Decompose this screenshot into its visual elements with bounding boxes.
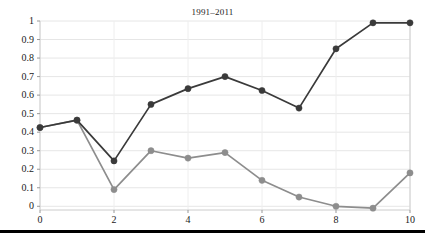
y-tick-label: 0.2	[8, 164, 34, 174]
data-point-marker	[370, 205, 376, 211]
x-tick-label: 4	[178, 215, 198, 225]
data-point-marker	[74, 117, 80, 123]
data-point-marker	[222, 73, 228, 79]
series-line-light-series	[40, 120, 410, 208]
y-tick-label: 0	[8, 201, 34, 211]
data-point-marker	[222, 149, 228, 155]
data-point-marker	[296, 105, 302, 111]
y-tick-label: 1	[8, 16, 34, 26]
x-tick-label: 8	[326, 215, 346, 225]
data-series-group	[37, 20, 413, 211]
bottom-rule	[0, 230, 425, 233]
data-point-marker	[407, 170, 413, 176]
data-point-marker	[148, 148, 154, 154]
y-tick-label: 0.8	[8, 53, 34, 63]
data-point-marker	[259, 87, 265, 93]
data-point-marker	[259, 177, 265, 183]
y-tick-label: 0.7	[8, 72, 34, 82]
data-point-marker	[333, 46, 339, 52]
y-tick-label: 0.4	[8, 127, 34, 137]
data-point-marker	[296, 194, 302, 200]
x-tick-label: 2	[104, 215, 124, 225]
data-point-marker	[148, 101, 154, 107]
chart-plot-area	[0, 0, 425, 238]
x-tick-label: 10	[400, 215, 420, 225]
data-point-marker	[111, 158, 117, 164]
chart-container: 1991–2011 00.10.20.30.40.50.60.70.80.91 …	[0, 0, 425, 238]
x-tick-label: 0	[30, 215, 50, 225]
gridlines	[40, 21, 410, 210]
data-point-marker	[370, 20, 376, 26]
y-tick-label: 0.6	[8, 90, 34, 100]
data-point-marker	[407, 20, 413, 26]
data-point-marker	[185, 155, 191, 161]
series-line-dark-series	[40, 23, 410, 161]
data-point-marker	[185, 86, 191, 92]
x-tick-label: 6	[252, 215, 272, 225]
y-tick-label: 0.5	[8, 109, 34, 119]
data-point-marker	[333, 203, 339, 209]
y-tick-label: 0.1	[8, 183, 34, 193]
y-tick-label: 0.9	[8, 35, 34, 45]
y-tick-label: 0.3	[8, 146, 34, 156]
data-point-marker	[37, 124, 43, 130]
axis-lines	[37, 21, 410, 213]
data-point-marker	[111, 187, 117, 193]
